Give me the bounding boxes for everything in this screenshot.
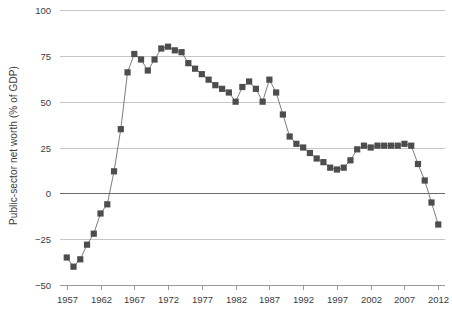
y-tick-label: −50 [35,280,51,291]
x-tick-label: 1987 [259,294,280,305]
data-point-marker [435,221,441,227]
data-point-marker [300,144,306,150]
data-point-marker [172,47,178,53]
x-tick-label: 1972 [158,294,179,305]
data-point-marker [415,161,421,167]
data-point-marker [151,56,157,62]
y-tick-label: 25 [40,143,51,154]
data-point-marker [84,242,90,248]
data-point-marker [334,166,340,172]
data-point-marker [341,165,347,171]
data-point-marker [165,44,171,50]
chart-container: Public-sector net worth (% of GDP) 10075… [0,0,452,325]
x-tick-label: 1982 [226,294,247,305]
data-point-marker [381,143,387,149]
data-point-marker [70,264,76,270]
x-tick-label: 1997 [327,294,348,305]
data-point-marker [206,77,212,83]
y-tick-label: −25 [35,234,51,245]
data-point-marker [253,86,259,92]
data-point-marker [361,143,367,149]
line-chart-plot: 1007550250−25−50 19571962196719721977198… [0,0,452,325]
data-point-marker [239,84,245,90]
data-point-marker [273,89,279,95]
data-point-marker [260,99,266,105]
data-series [64,44,442,270]
x-tick-label: 1962 [91,294,112,305]
data-point-marker [347,157,353,163]
x-tick-label: 1992 [293,294,314,305]
data-point-marker [64,254,70,260]
data-point-marker [219,86,225,92]
data-point-marker [124,69,130,75]
y-tick-label: 0 [46,188,51,199]
data-point-marker [307,150,313,156]
data-point-marker [212,82,218,88]
data-point-marker [104,201,110,207]
data-point-marker [91,231,97,237]
data-point-marker [266,77,272,83]
data-point-marker [77,256,83,262]
data-point-marker [320,159,326,165]
x-tick-label: 2002 [361,294,382,305]
data-point-marker [287,133,293,139]
x-tick-label: 2007 [394,294,415,305]
y-axis-tick-labels: 1007550250−25−50 [35,5,51,291]
x-tick-label: 1967 [124,294,145,305]
data-point-marker [192,66,198,72]
x-tick-label: 2012 [428,294,449,305]
data-point-marker [314,155,320,161]
x-tick-label: 1957 [57,294,78,305]
data-point-marker [199,71,205,77]
data-point-marker [118,126,124,132]
data-point-marker [422,177,428,183]
data-point-marker [138,56,144,62]
data-point-marker [368,144,374,150]
data-point-marker [226,89,232,95]
data-point-marker [395,143,401,149]
data-point-marker [233,99,239,105]
x-tick-label: 1977 [192,294,213,305]
data-point-marker [388,143,394,149]
data-point-marker [408,143,414,149]
data-point-marker [401,141,407,147]
data-point-marker [374,143,380,149]
y-tick-label: 100 [35,5,51,16]
data-point-marker [178,49,184,55]
data-point-marker [185,60,191,66]
y-tick-label: 75 [40,51,51,62]
data-point-marker [145,67,151,73]
data-point-marker [131,51,137,57]
data-point-marker [327,165,333,171]
series-line [67,47,439,267]
y-tick-label: 50 [40,97,51,108]
data-point-marker [428,199,434,205]
data-point-marker [354,146,360,152]
data-point-marker [293,141,299,147]
data-point-marker [246,78,252,84]
data-point-marker [111,168,117,174]
data-point-marker [280,111,286,117]
data-point-marker [97,210,103,216]
data-point-marker [158,45,164,51]
x-axis-tick-labels: 1957196219671972197719821987199219972002… [57,285,449,305]
